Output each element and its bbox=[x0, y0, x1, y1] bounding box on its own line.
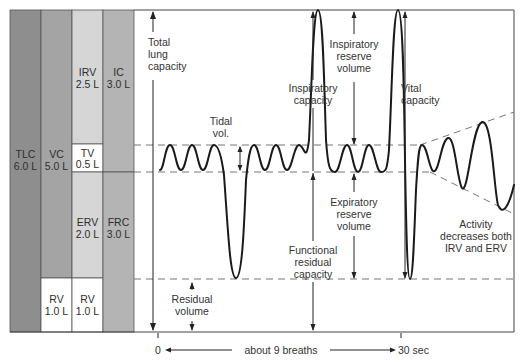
residual-volume-label-1: Residual bbox=[172, 293, 213, 305]
axis-end-label: 30 sec bbox=[398, 344, 429, 356]
activity-note-3: IRV and ERV bbox=[445, 242, 507, 254]
vc-column bbox=[41, 10, 72, 278]
lung-volumes-diagram: TLC 6.0 L VC 5.0 L IRV 2.5 L TV 0.5 L ER… bbox=[0, 0, 521, 362]
frc-label-1: Functional bbox=[289, 244, 337, 256]
total-lung-capacity-label-2: lung bbox=[148, 48, 168, 60]
inspiratory-capacity-label-1: Inspiratory bbox=[288, 82, 338, 94]
rv-value-1: 1.0 L bbox=[45, 305, 69, 317]
tidal-vol-label-1: Tidal bbox=[210, 115, 232, 127]
erv-label-1: Expiratory bbox=[330, 196, 378, 208]
erv-value: 2.0 L bbox=[76, 228, 100, 240]
irv-decrease-line bbox=[420, 112, 514, 145]
vc-name: VC bbox=[49, 148, 64, 160]
erv-label-3: volume bbox=[337, 220, 371, 232]
ic-value: 3.0 L bbox=[107, 78, 131, 90]
axis-start-label: 0 bbox=[155, 344, 161, 356]
ic-name: IC bbox=[113, 66, 124, 78]
inspiratory-capacity-arrow bbox=[311, 11, 316, 331]
irv-name: IRV bbox=[79, 66, 96, 78]
ic-column bbox=[103, 10, 134, 172]
residual-volume-label-2: volume bbox=[175, 305, 209, 317]
tlc-value: 6.0 L bbox=[14, 160, 38, 172]
inspiratory-capacity-label-2: capacity bbox=[294, 94, 333, 106]
frc-label-2: residual bbox=[295, 256, 332, 268]
frc-value: 3.0 L bbox=[107, 228, 131, 240]
irv-value: 2.5 L bbox=[76, 78, 100, 90]
irv-label-3: volume bbox=[337, 62, 371, 74]
irv-label-2: reserve bbox=[336, 50, 371, 62]
rv-value-2: 1.0 L bbox=[76, 305, 100, 317]
irv-label-1: Inspiratory bbox=[329, 38, 379, 50]
erv-label-2: reserve bbox=[336, 208, 371, 220]
vital-capacity-label-1: Vital bbox=[401, 82, 421, 94]
rv-name-1: RV bbox=[49, 293, 63, 305]
frc-label-3: capacity bbox=[294, 268, 333, 280]
vital-capacity-label-2: capacity bbox=[401, 94, 440, 106]
erv-decrease-line bbox=[430, 172, 514, 214]
erv-name: ERV bbox=[77, 216, 98, 228]
axis-middle-label: about 9 breaths bbox=[245, 344, 318, 356]
tlc-name: TLC bbox=[16, 148, 36, 160]
tidal-volume-arrow bbox=[238, 146, 243, 171]
total-lung-capacity-label-1: Total bbox=[148, 36, 170, 48]
total-lung-capacity-label-3: capacity bbox=[148, 60, 187, 72]
activity-note-2: decreases both bbox=[440, 230, 512, 242]
frc-name: FRC bbox=[108, 216, 130, 228]
vc-value: 5.0 L bbox=[45, 160, 69, 172]
activity-note-1: Activity bbox=[459, 218, 493, 230]
rv-name-2: RV bbox=[80, 293, 94, 305]
frc-column bbox=[103, 172, 134, 332]
tv-value: 0.5 L bbox=[76, 158, 100, 170]
irv-arrow bbox=[352, 11, 357, 145]
tidal-vol-label-2: vol. bbox=[213, 127, 229, 139]
